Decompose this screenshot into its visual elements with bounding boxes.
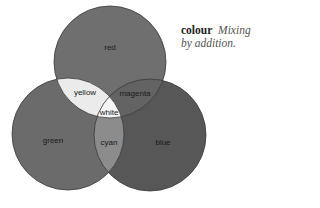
label-red: red xyxy=(104,43,116,52)
label-blue: blue xyxy=(155,138,171,147)
caption-term: colour xyxy=(181,24,212,36)
caption-description-line1: Mixing xyxy=(218,24,251,36)
caption-description-line2: by addition. xyxy=(181,37,236,49)
label-magenta: magenta xyxy=(119,89,151,98)
label-green: green xyxy=(43,136,63,145)
label-white: white xyxy=(99,108,119,117)
label-yellow: yellow xyxy=(74,88,96,97)
caption: colour Mixing by addition. xyxy=(181,24,273,50)
label-cyan: cyan xyxy=(101,138,118,147)
